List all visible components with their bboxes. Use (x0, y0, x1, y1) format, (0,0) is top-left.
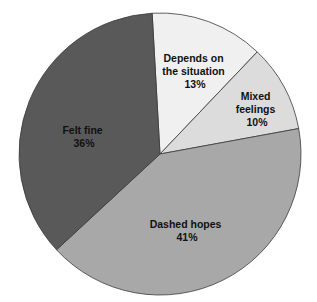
pie-slices (19, 13, 301, 295)
pie-chart: Depends on the situation 13% Mixed feeli… (0, 0, 317, 302)
